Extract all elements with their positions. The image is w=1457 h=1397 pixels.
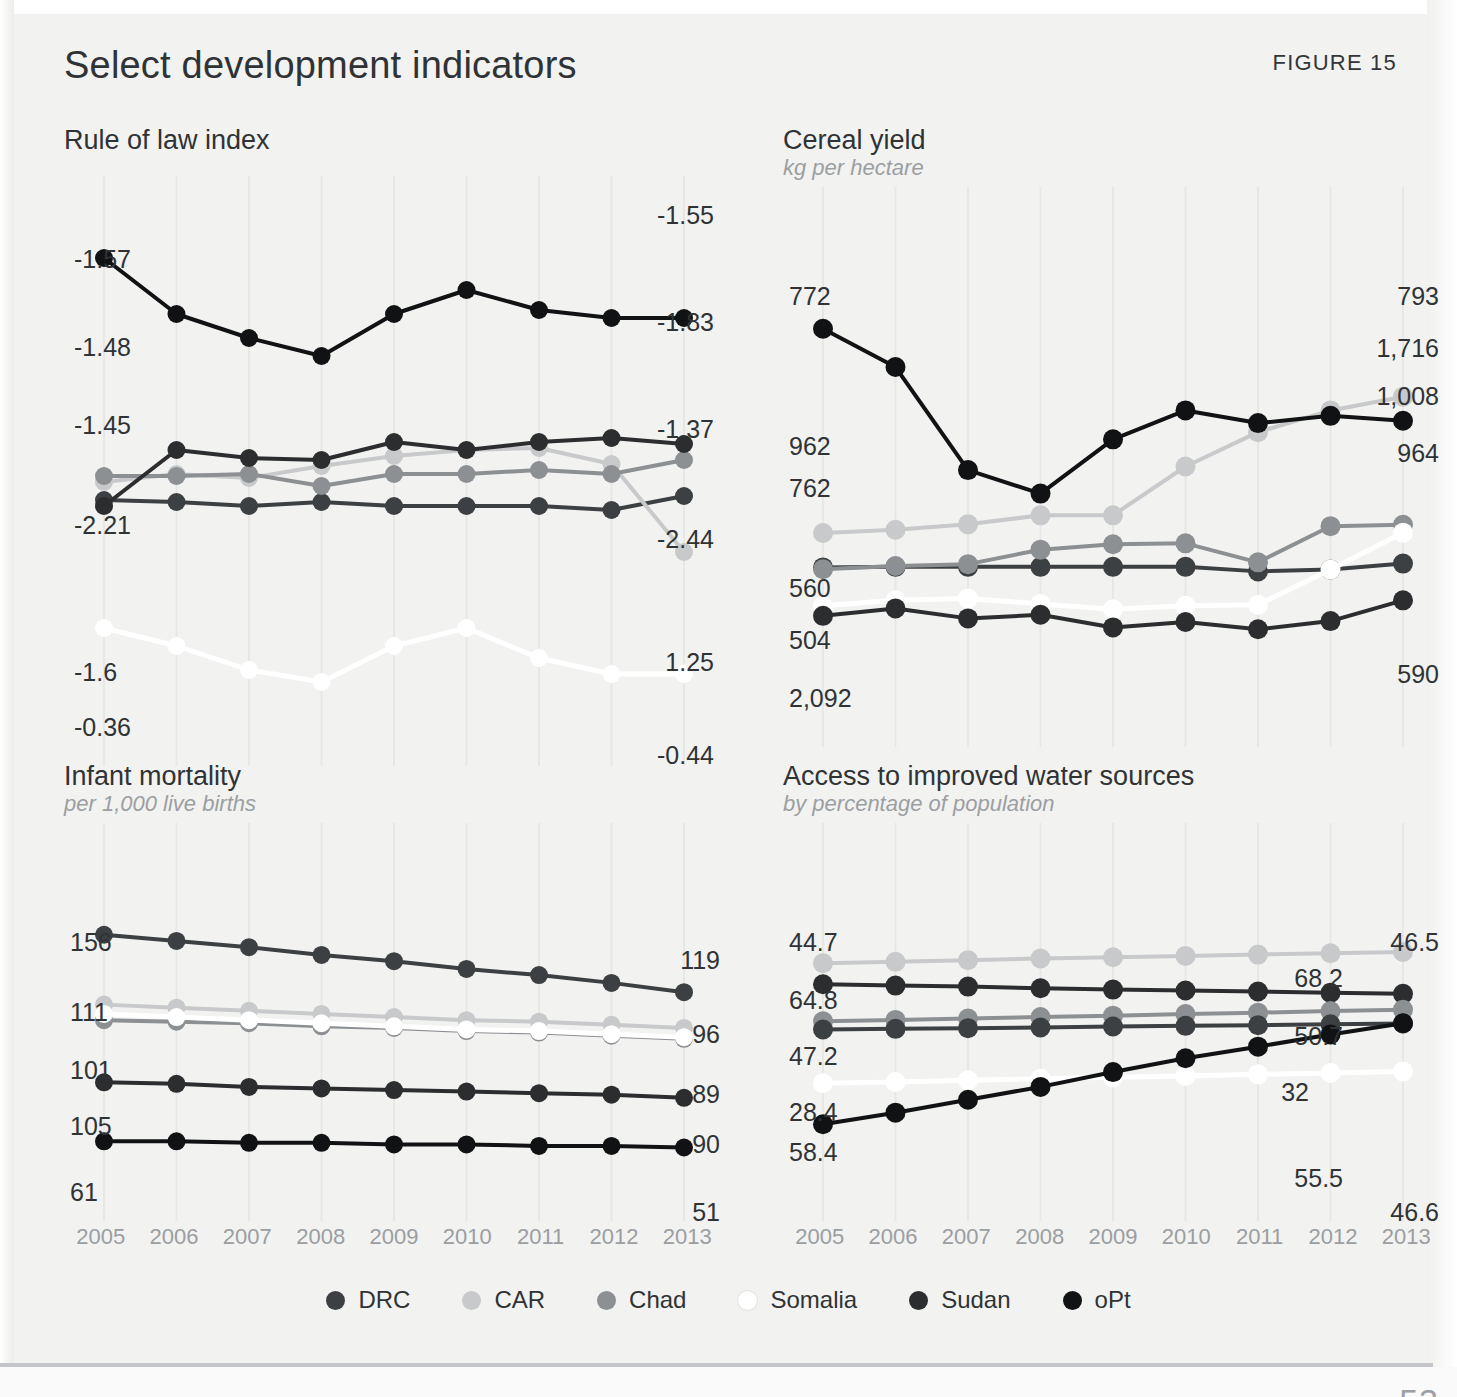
data-point-sudan-2010 [1176, 981, 1196, 1001]
data-point-somalia-2013 [1393, 523, 1413, 543]
value-label: -1.37 [657, 415, 714, 443]
value-label: 28.4 [789, 1098, 838, 1126]
legend-item-chad[interactable]: Chad [597, 1286, 686, 1314]
panel-water-access: Access to improved water sources by perc… [783, 762, 1443, 1221]
panel-subtitle-infant-mortality: per 1,000 live births [64, 792, 724, 815]
data-point-sudan-2011 [1248, 982, 1268, 1002]
value-label: 90 [692, 1130, 720, 1158]
data-point-somalia-2006 [168, 1008, 186, 1026]
data-point-somalia-2010 [1176, 1066, 1196, 1086]
value-label: 55.5 [1294, 1164, 1343, 1192]
data-point-drc-2008 [1031, 1018, 1051, 1038]
data-point-sudan-2007 [240, 1078, 258, 1096]
value-label: 32 [1281, 1078, 1309, 1106]
data-point-opt-2006 [886, 357, 906, 377]
data-point-car-2010 [1176, 946, 1196, 966]
data-point-opt-2012 [1321, 406, 1341, 426]
value-label: 58.4 [789, 1138, 838, 1166]
data-point-drc-2011 [530, 497, 548, 515]
legend-item-drc[interactable]: DRC [326, 1286, 410, 1314]
data-point-opt-2007 [958, 461, 978, 481]
value-label: 2,092 [789, 684, 852, 712]
data-point-sudan-2007 [958, 609, 978, 629]
data-point-opt-2013 [675, 1139, 693, 1157]
data-point-opt-2012 [603, 1137, 621, 1155]
x-tick-2011: 2011 [504, 1224, 577, 1250]
legend-item-car[interactable]: CAR [462, 1286, 545, 1314]
page-number: 53 [1399, 1382, 1439, 1397]
series-legend: DRCCARChadSomaliaSudanoPt [0, 1286, 1457, 1314]
data-point-car-2007 [958, 951, 978, 971]
data-point-sudan-2009 [1103, 980, 1123, 1000]
x-axis-years-right: 200520062007200820092010201120122013 [783, 1224, 1443, 1250]
data-point-opt-2011 [1248, 414, 1268, 434]
data-point-chad-2008 [313, 477, 331, 495]
data-point-opt-2006 [886, 1103, 906, 1123]
legend-label-sudan: Sudan [941, 1286, 1010, 1314]
data-point-opt-2009 [385, 1136, 403, 1154]
data-point-sudan-2008 [313, 1080, 331, 1098]
panel-title-water-access: Access to improved water sources [783, 762, 1443, 790]
x-tick-2010: 2010 [431, 1224, 504, 1250]
data-point-car-2005 [813, 954, 833, 974]
data-point-drc-2013 [1393, 554, 1413, 574]
data-point-car-2012 [1321, 944, 1341, 964]
data-point-somalia-2011 [1248, 1065, 1268, 1085]
figure-page: Select development indicators FIGURE 15 … [0, 0, 1457, 1397]
value-label: -1.45 [74, 411, 131, 439]
legend-label-car: CAR [494, 1286, 545, 1314]
x-tick-2011: 2011 [1223, 1224, 1296, 1250]
data-point-somalia-2005 [813, 1074, 833, 1094]
value-label: 1,008 [1376, 382, 1439, 410]
page-title: Select development indicators [64, 44, 577, 87]
data-point-drc-2009 [385, 953, 403, 971]
data-point-sudan-2005 [813, 606, 833, 626]
page-top-margin [0, 0, 1457, 14]
data-point-somalia-2011 [530, 1022, 548, 1040]
data-point-drc-2009 [385, 497, 403, 515]
data-point-drc-2009 [1103, 557, 1123, 577]
data-point-chad-2011 [1248, 553, 1268, 573]
data-point-opt-2007 [958, 1090, 978, 1110]
data-point-drc-2006 [168, 493, 186, 511]
x-tick-2008: 2008 [284, 1224, 357, 1250]
x-axis-years-left: 200520062007200820092010201120122013 [64, 1224, 724, 1250]
legend-label-drc: DRC [358, 1286, 410, 1314]
data-point-sudan-2011 [1248, 620, 1268, 640]
legend-item-somalia[interactable]: Somalia [738, 1286, 857, 1314]
data-point-sudan-2006 [886, 599, 906, 619]
data-point-sudan-2012 [1321, 612, 1341, 632]
data-point-car-2009 [1103, 948, 1123, 968]
data-point-somalia-2011 [1248, 595, 1268, 615]
data-point-sudan-2010 [1176, 612, 1196, 632]
data-point-drc-2006 [886, 1019, 906, 1039]
value-label: 156 [70, 928, 112, 956]
panel-subtitle-cereal-yield: kg per hectare [783, 156, 1443, 179]
x-tick-2013: 2013 [651, 1224, 724, 1250]
value-label: 962 [789, 432, 831, 460]
value-label: 51 [692, 1198, 720, 1221]
data-point-sudan-2008 [313, 451, 331, 469]
value-label: 111 [70, 998, 108, 1026]
data-point-car-2008 [1031, 949, 1051, 969]
value-label: 504 [789, 626, 831, 654]
value-label: -1.48 [74, 333, 131, 361]
data-point-opt-2010 [1176, 1049, 1196, 1069]
value-label: 762 [789, 474, 831, 502]
data-point-somalia-2005 [95, 619, 113, 637]
x-tick-2012: 2012 [577, 1224, 650, 1250]
data-point-sudan-2011 [530, 1085, 548, 1103]
data-point-drc-2010 [1176, 557, 1196, 577]
data-point-car-2006 [886, 520, 906, 540]
value-label: -1.57 [74, 245, 131, 273]
legend-item-sudan[interactable]: Sudan [909, 1286, 1010, 1314]
legend-item-opt[interactable]: oPt [1063, 1286, 1131, 1314]
figure-number-label: FIGURE 15 [1273, 50, 1398, 76]
data-point-car-2011 [1248, 945, 1268, 965]
value-label: -2.44 [657, 525, 714, 553]
data-point-sudan-2013 [1393, 591, 1413, 611]
data-point-somalia-2007 [240, 1012, 258, 1030]
data-point-somalia-2010 [458, 1021, 476, 1039]
x-tick-2006: 2006 [856, 1224, 929, 1250]
value-label: 793 [1397, 282, 1439, 310]
